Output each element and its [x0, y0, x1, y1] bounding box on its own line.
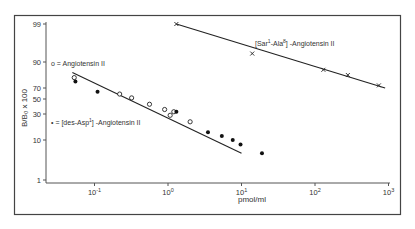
y-tick-label: 90	[33, 58, 41, 67]
chart-frame	[15, 16, 401, 215]
fit-line	[72, 72, 241, 153]
chart: 9990705030101 10-1100101102103 B/B₀ x 10…	[0, 0, 415, 229]
data-point-angiotensin-ii	[147, 102, 151, 106]
data-point-des-asp1	[73, 80, 77, 84]
legend-des-asp1: • = [des-Asp1] -Angiotensin II	[51, 117, 141, 127]
data-point-des-asp1	[96, 90, 100, 94]
x-tick-label: 100	[162, 187, 173, 197]
y-tick-label: 30	[33, 110, 41, 119]
data-point-des-asp1	[220, 134, 224, 138]
data-point-des-asp1	[231, 138, 235, 142]
legend-sar1-ala8: [Sar1-Ala8] -Angiotensin II	[255, 38, 335, 48]
x-tick-label: 10-1	[88, 187, 101, 197]
data-point-angiotensin-ii	[163, 107, 167, 111]
data-point-sar1-ala8	[250, 52, 254, 56]
data-point-des-asp1	[260, 151, 264, 155]
y-axis-label: B/B₀ x 100	[20, 88, 29, 127]
legend-angiotensin-ii: o = Angiotensin II	[51, 60, 105, 68]
y-tick-label: 1	[37, 176, 41, 185]
x-axis-label: pmol/ml	[238, 195, 266, 204]
y-tick-label: 99	[33, 20, 41, 29]
data-point-angiotensin-ii	[188, 120, 192, 124]
data-point-angiotensin-ii	[168, 113, 172, 117]
data-point-angiotensin-ii	[72, 76, 76, 80]
y-tick-label: 10	[33, 136, 41, 145]
x-tick-label: 102	[309, 187, 320, 197]
data-point-angiotensin-ii	[130, 96, 134, 100]
data-point-angiotensin-ii	[118, 92, 122, 96]
data-point-des-asp1	[239, 142, 243, 146]
data-point-des-asp1	[206, 130, 210, 134]
x-tick-label: 103	[383, 187, 394, 197]
y-tick-label: 70	[33, 84, 41, 93]
fit-line	[176, 24, 385, 88]
y-tick-label: 50	[33, 95, 41, 104]
data-point-des-asp1	[174, 110, 178, 114]
